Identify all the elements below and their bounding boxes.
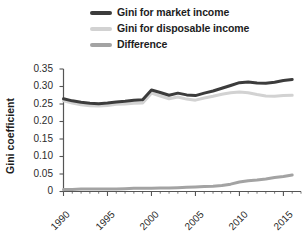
chart-figure: Gini for market income Gini for disposab… xyxy=(0,0,308,238)
x-tick-marks xyxy=(64,192,302,197)
series-line xyxy=(64,175,293,189)
axis-lines xyxy=(64,69,302,192)
series-lines xyxy=(64,80,293,190)
plot-area xyxy=(0,0,308,238)
series-line xyxy=(64,80,293,104)
